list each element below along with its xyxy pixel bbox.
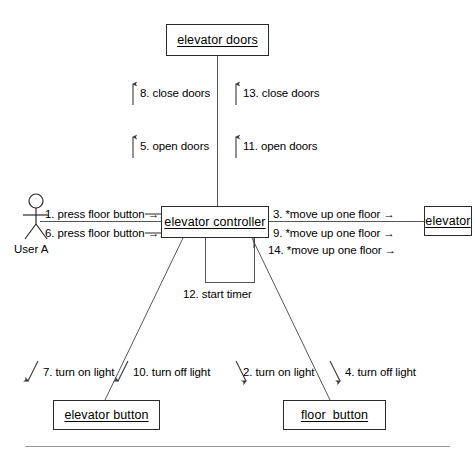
message-label-9: 9. *move up one floor → xyxy=(273,227,395,239)
object-elevator-doors[interactable]: elevator doors xyxy=(166,24,269,56)
object-elevator-doors-label: elevator doors xyxy=(177,33,258,47)
message-label-11: 11. open doors xyxy=(243,140,317,152)
message-label-3: 3. *move up one floor → xyxy=(273,208,395,220)
object-floor-button-label: floor_button xyxy=(301,408,368,422)
message-label-13: 13. close doors xyxy=(243,87,320,99)
object-elevator-label: elevator xyxy=(425,214,470,228)
message-label-14: 14. *move up one floor → xyxy=(268,244,396,256)
message-label-1: 1. press floor button → xyxy=(45,208,159,220)
object-elevator-controller[interactable]: elevator controller xyxy=(161,206,269,238)
message-label-7: 7. turn on light xyxy=(43,366,114,378)
communication-diagram-canvas: User A elevator doors elevator controlle… xyxy=(0,0,475,465)
object-floor-button[interactable]: floor_button xyxy=(283,400,386,430)
object-elevator-button-label: elevator button xyxy=(64,408,148,422)
object-elevator-controller-label: elevator controller xyxy=(164,215,265,229)
object-elevator[interactable]: elevator xyxy=(424,206,472,236)
actor-user-a-icon xyxy=(18,193,58,241)
msg-arrow-4 xyxy=(330,361,340,381)
message-label-10: 10. turn off light xyxy=(133,366,210,378)
message-label-6: 6. press floor button → xyxy=(45,227,159,239)
message-label-12: 12. start timer xyxy=(183,288,252,300)
actor-name-label: User A xyxy=(14,243,49,255)
msg-arrow-7 xyxy=(28,361,38,381)
message-label-4: 4. turn off light xyxy=(345,366,416,378)
object-elevator-button[interactable]: elevator button xyxy=(53,400,160,430)
message-label-8: 8. close doors xyxy=(140,87,210,99)
message-label-2: 2. turn on light xyxy=(243,366,314,378)
message-label-5: 5. open doors xyxy=(140,140,209,152)
